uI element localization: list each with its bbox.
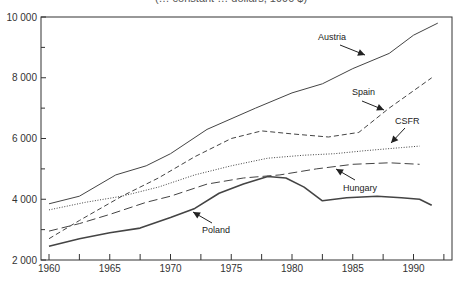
x-tick-label: 1990 <box>402 263 425 274</box>
chart-title: (… constant … dollars, 1990 $) <box>155 0 307 4</box>
line-chart: (… constant … dollars, 1990 $) 2 0004 00… <box>0 0 462 285</box>
y-tick-label: 4 000 <box>12 194 37 205</box>
x-tick-label: 1980 <box>281 263 304 274</box>
x-axis: 1960196519701975198019851990 <box>38 254 444 274</box>
y-axis: 2 0004 0006 0008 00010 000 <box>6 12 46 266</box>
series-labels: AustriaSpainCSFRHungaryPoland <box>193 32 420 235</box>
x-tick-label: 1965 <box>99 263 122 274</box>
plot-border <box>41 17 452 260</box>
x-tick-label: 1960 <box>38 263 61 274</box>
x-tick-label: 1985 <box>342 263 365 274</box>
series-label-spain: Spain <box>352 87 375 97</box>
series-label-austria: Austria <box>318 32 346 42</box>
series-line-csfr <box>49 146 420 210</box>
y-tick-label: 2 000 <box>12 255 37 266</box>
series-label-csfr: CSFR <box>395 116 420 126</box>
plot-frame <box>41 17 452 260</box>
x-tick-label: 1975 <box>220 263 243 274</box>
series-line-spain <box>49 78 432 239</box>
y-tick-label: 6 000 <box>12 133 37 144</box>
y-tick-label: 8 000 <box>12 72 37 83</box>
y-tick-label: 10 000 <box>6 12 37 23</box>
series-layer <box>49 23 438 246</box>
series-label-poland: Poland <box>202 225 230 235</box>
series-label-hungary: Hungary <box>343 183 378 193</box>
series-line-austria <box>49 23 438 204</box>
x-tick-label: 1970 <box>159 263 182 274</box>
